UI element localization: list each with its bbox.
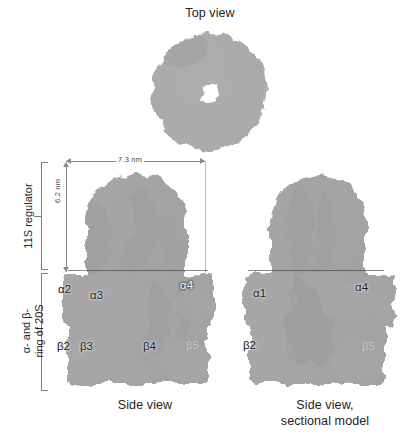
caption-side-view: Side view — [85, 398, 205, 414]
interface-line-side-view — [68, 270, 208, 271]
bracket-label-11s-regulator: 11S regulator — [22, 160, 35, 272]
molecular-structure-figure: Top view — [0, 0, 409, 445]
caption-side-view-sectional: Side view, sectional model — [250, 398, 400, 429]
bracket-11s-regulator — [33, 162, 49, 270]
top-view-structure — [142, 26, 277, 158]
interface-line-sectional-view — [248, 270, 384, 271]
caption-top-view: Top view — [155, 6, 265, 22]
side-view-structure — [58, 162, 218, 390]
side-view-sectional-structure — [238, 162, 398, 390]
bracket-label-20s-ring: α- and β- ring of 20S — [20, 270, 45, 392]
